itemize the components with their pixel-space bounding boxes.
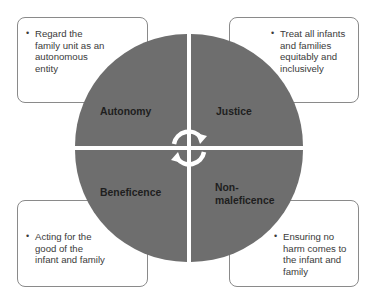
- quadrant-beneficence: [75, 150, 187, 262]
- quadrant-justice: [191, 34, 303, 146]
- label-justice: Justice: [216, 106, 252, 119]
- label-non-maleficence-line1: Non-: [215, 182, 275, 195]
- label-non-maleficence-line2: maleficence: [215, 195, 275, 208]
- label-autonomy: Autonomy: [100, 106, 151, 119]
- label-non-maleficence: Non- maleficence: [215, 182, 275, 207]
- quadrant-autonomy: [75, 34, 187, 146]
- quadrant-circle: [0, 0, 378, 303]
- label-beneficence: Beneficence: [100, 187, 161, 200]
